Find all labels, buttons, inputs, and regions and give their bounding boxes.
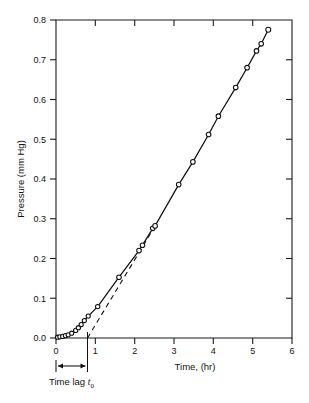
chart-figure: 0.0 0.1 0.2 0.3 0.4 0.5 0.6 0.7 0.8 0 1 … (0, 0, 309, 403)
data-point (79, 322, 83, 326)
time-lag-label-main: Time lag (49, 376, 88, 387)
x-tick-label: 3 (171, 346, 176, 356)
data-point (254, 49, 259, 54)
x-axis-title: Time, (hr) (175, 361, 216, 372)
data-point (117, 275, 122, 280)
y-tick-label: 0.6 (33, 95, 46, 105)
data-point (259, 42, 264, 47)
time-lag-label: Time lag t0 (49, 376, 94, 390)
y-axis-ticks-right (286, 60, 292, 299)
data-point (176, 182, 181, 187)
data-point (245, 65, 250, 70)
arrow-head-right-icon (81, 363, 86, 368)
x-axis-ticks-top (95, 20, 252, 26)
pressure-vs-time-chart: 0.0 0.1 0.2 0.3 0.4 0.5 0.6 0.7 0.8 0 1 … (0, 0, 309, 403)
y-tick-label: 0.3 (33, 214, 46, 224)
data-point (82, 318, 86, 322)
y-tick-label: 0.4 (33, 174, 46, 184)
data-point (191, 160, 196, 165)
data-point (206, 132, 211, 137)
x-tick-label: 5 (250, 346, 255, 356)
data-point (137, 248, 142, 253)
data-point (233, 85, 238, 90)
y-tick-label: 0.0 (33, 333, 46, 343)
x-axis-tick-labels: 0 1 2 3 4 5 6 (53, 346, 294, 356)
x-axis-ticks-bottom (56, 338, 292, 344)
x-tick-label: 1 (93, 346, 98, 356)
data-point (266, 27, 271, 32)
y-tick-label: 0.2 (33, 254, 46, 264)
y-axis-title: Pressure (mm Hg) (15, 140, 26, 218)
arrow-head-left-icon (58, 363, 63, 368)
data-point (153, 224, 158, 229)
y-axis-ticks-left (50, 20, 56, 338)
y-tick-label: 0.8 (33, 15, 46, 25)
time-lag-label-subscript: 0 (90, 382, 94, 390)
x-tick-label: 6 (289, 346, 294, 356)
data-point-markers (56, 27, 271, 339)
y-axis-tick-labels: 0.0 0.1 0.2 0.3 0.4 0.5 0.6 0.7 0.8 (33, 15, 46, 343)
y-tick-label: 0.5 (33, 135, 46, 145)
y-tick-label: 0.7 (33, 55, 46, 65)
asymptote-dashed-line (88, 226, 156, 338)
data-point (216, 114, 221, 119)
x-tick-label: 2 (132, 346, 137, 356)
plot-frame (56, 20, 292, 338)
data-point (70, 331, 74, 335)
y-tick-label: 0.1 (33, 294, 46, 304)
x-tick-label: 0 (53, 346, 58, 356)
data-curve-solid (58, 30, 269, 338)
data-point (140, 243, 145, 248)
data-point (96, 304, 100, 308)
data-point (86, 314, 90, 318)
x-tick-label: 4 (211, 346, 216, 356)
